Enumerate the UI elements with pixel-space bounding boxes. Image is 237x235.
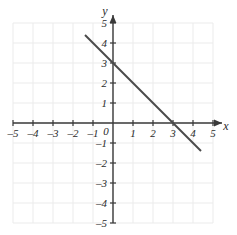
x-axis-label: x [222,119,229,133]
x-tick-label: 4 [190,127,196,139]
y-tick-label: –5 [95,217,108,229]
y-tick-label: 5 [102,17,108,29]
x-tick-label: –2 [67,127,80,139]
y-tick-label: –4 [95,197,108,209]
graph-canvas: –5–4–3–2–11234554321–1–2–3–4–5 x y 0 [0,0,237,235]
origin-label: 0 [103,125,109,137]
y-tick-label: 4 [102,37,108,49]
x-axis-arrowhead [214,120,222,127]
x-tick-label: –3 [47,127,60,139]
x-tick-label: 2 [150,127,156,139]
y-tick-label: –1 [95,137,107,149]
y-axis-label: y [101,4,108,18]
y-axis-arrowhead [110,15,117,23]
x-tick-label: –4 [27,127,40,139]
y-tick-label: 3 [101,57,108,69]
x-tick-label: 1 [130,127,136,139]
y-tick-label: –2 [95,157,108,169]
x-tick-label: 3 [169,127,176,139]
axes [13,15,222,223]
coordinate-plane-graph: –5–4–3–2–11234554321–1–2–3–4–5 x y 0 [0,0,237,235]
y-tick-label: –3 [95,177,108,189]
x-tick-label: –5 [7,127,20,139]
y-tick-label: 1 [102,97,108,109]
y-tick-label: 2 [102,77,108,89]
x-tick-label: 5 [210,127,216,139]
